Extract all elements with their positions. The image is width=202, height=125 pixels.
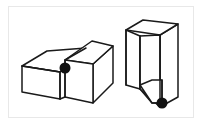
marked-point-left	[60, 63, 71, 74]
solids-illustration	[0, 0, 202, 125]
right-block-left-sliver-face	[126, 30, 140, 89]
right-solid-group	[126, 20, 178, 107]
marked-point-right	[157, 98, 168, 109]
figure-panel: Two isometric block solids with marked p…	[0, 0, 202, 125]
